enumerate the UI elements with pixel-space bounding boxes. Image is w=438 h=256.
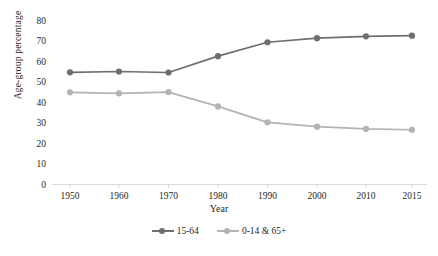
legend-entry[interactable]: 15-64 xyxy=(152,226,199,236)
data-point-marker xyxy=(67,89,73,95)
data-point-marker xyxy=(116,90,122,96)
x-axis-tick-label: 2010 xyxy=(343,191,389,201)
data-point-marker xyxy=(363,33,369,39)
data-point-marker xyxy=(409,33,415,39)
x-axis-tick-label: 1960 xyxy=(96,191,142,201)
series-line xyxy=(70,36,412,73)
legend-swatch-icon xyxy=(152,227,174,235)
data-point-marker xyxy=(67,69,73,75)
age-group-line-chart: Age-group percentage 01020304050607080 1… xyxy=(0,0,438,256)
data-point-marker xyxy=(264,119,270,125)
data-point-marker xyxy=(409,127,415,133)
chart-legend: 15-640-14 & 65+ xyxy=(0,226,438,236)
series-light xyxy=(67,89,415,133)
x-axis-tick-label: 1970 xyxy=(146,191,192,201)
legend-entry[interactable]: 0-14 & 65+ xyxy=(217,226,286,236)
data-point-marker xyxy=(116,68,122,74)
x-axis-title: Year xyxy=(0,203,438,214)
x-axis-tick-label: 2015 xyxy=(389,191,435,201)
plot-area xyxy=(0,0,438,256)
series-dark xyxy=(67,33,415,76)
legend-swatch-icon xyxy=(217,227,239,235)
data-point-marker xyxy=(314,35,320,41)
data-point-marker xyxy=(215,103,221,109)
x-axis-tick-label: 1950 xyxy=(47,191,93,201)
data-point-marker xyxy=(314,124,320,130)
data-point-marker xyxy=(215,53,221,59)
legend-label: 0-14 & 65+ xyxy=(242,226,286,236)
data-point-marker xyxy=(363,126,369,132)
legend-label: 15-64 xyxy=(177,226,199,236)
x-axis-tick-label: 1980 xyxy=(195,191,241,201)
data-point-marker xyxy=(264,39,270,45)
x-axis-tick-label: 1990 xyxy=(245,191,291,201)
data-point-marker xyxy=(165,89,171,95)
x-axis-tick-label: 2000 xyxy=(294,191,340,201)
data-point-marker xyxy=(165,69,171,75)
series-line xyxy=(70,92,412,130)
